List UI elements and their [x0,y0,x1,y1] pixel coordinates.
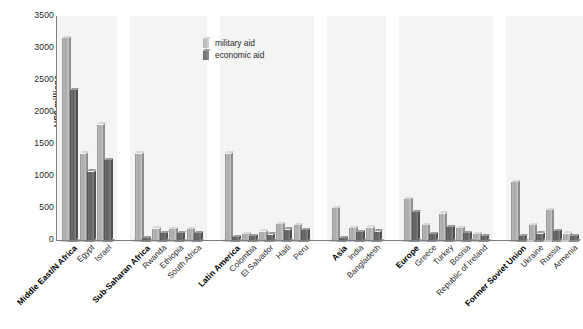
bar-top [160,231,169,233]
bar-economic-aid[interactable] [446,227,455,240]
bar-top [177,231,186,233]
x-axis-line [57,240,527,241]
x-label-asia: Asia [329,243,349,263]
legend-swatch-economic-aid [203,51,209,60]
y-tick-label: 1500 [34,138,54,148]
bar-economic-aid[interactable] [284,230,293,240]
bar-economic-aid[interactable] [104,160,113,240]
y-tick-label: 3000 [34,42,54,52]
bar-side [94,169,96,240]
y-tick-label: 1000 [34,170,54,180]
x-label-israel: Israel [93,243,114,264]
bar-top [294,223,303,225]
bar-economic-aid[interactable] [356,232,365,240]
legend-label-economic-aid: economic aid [215,50,264,60]
bar-economic-aid[interactable] [374,232,383,240]
bar-side [142,151,144,240]
bar-top [529,223,538,225]
bar-top [332,206,341,208]
bar-side [338,206,340,240]
bar-economic-aid[interactable] [160,233,169,240]
x-label-egypt: Egypt [75,243,96,264]
bar-economic-aid[interactable] [177,233,186,240]
legend-swatch-military-aid [203,39,209,48]
bar-top [481,234,490,236]
bar-economic-aid[interactable] [412,212,421,240]
bar-side [231,151,233,240]
bar-military-aid[interactable] [511,182,520,240]
bar-side [111,158,113,240]
bar-economic-aid[interactable] [194,233,203,240]
bar-side [518,180,520,240]
bar-economic-aid[interactable] [570,236,579,240]
bar-top [422,223,431,225]
bar-side [76,88,78,240]
x-label-haiti: Haiti [275,243,293,261]
bar-economic-aid[interactable] [301,230,310,240]
bar-military-aid[interactable] [225,154,234,240]
bar-economic-aid[interactable] [70,90,79,240]
bar-military-aid[interactable] [135,154,144,240]
y-tick-label: 0 [49,234,54,244]
y-tick-label: 2000 [34,106,54,116]
bar-military-aid[interactable] [332,208,341,240]
y-tick-label: 500 [39,202,54,212]
bar-economic-aid[interactable] [463,233,472,240]
legend-label-military-aid: military aid [215,38,255,48]
y-tick-label: 2500 [34,74,54,84]
bar-economic-aid[interactable] [87,172,96,240]
x-label-peru: Peru [291,243,310,262]
bar-top [546,208,555,210]
x-label-middle-east-n-africa: Middle East/N Africa [15,243,79,307]
group-panel-europe [399,16,493,240]
bar-side [453,225,455,240]
y-tick-label: 3500 [34,10,54,20]
plot-area [57,16,527,240]
